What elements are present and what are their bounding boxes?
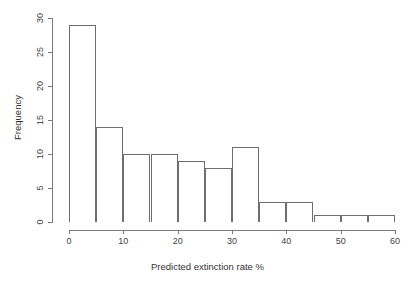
x-axis-tick [232,230,233,234]
x-axis-tick [69,230,70,234]
y-axis-tick-label: 5 [35,182,45,194]
y-axis-tick [48,86,53,87]
y-axis-tick-label: 30 [35,12,45,24]
x-axis-tick [123,230,124,234]
y-axis-tick-label: 25 [35,46,45,58]
y-axis-tick [48,154,53,155]
histogram-bar [205,168,232,222]
y-axis-tick [48,188,53,189]
x-axis-tick [286,230,287,234]
histogram-bar [96,127,123,222]
histogram-bar [368,215,395,222]
histogram-bar [123,154,150,222]
y-axis-title: Frequency [12,63,23,173]
histogram-bar [178,161,205,222]
y-axis-tick-label: 20 [35,80,45,92]
histogram-bar [314,215,341,222]
y-axis-tick [48,222,53,223]
y-axis-tick [48,120,53,121]
histogram-bar [232,147,259,222]
y-axis-tick-label: 0 [35,216,45,228]
x-axis-tick [178,230,179,234]
histogram-bar [259,202,286,222]
x-axis-tick-label: 50 [336,236,346,247]
y-axis-tick-label: 10 [35,148,45,160]
plot-area [69,18,395,222]
x-axis-title: Predicted extinction rate % [0,261,415,272]
x-axis-tick [341,230,342,234]
histogram-bar [286,202,313,222]
x-axis-tick-label: 10 [118,236,128,247]
y-axis-tick [48,18,53,19]
x-axis-tick [395,230,396,234]
histogram-figure: 0102030405060 051015202530 Predicted ext… [0,0,415,285]
y-axis-tick-label: 15 [35,114,45,126]
x-axis-tick-label: 0 [66,236,71,247]
histogram-bar [341,215,368,222]
histogram-bar [151,154,178,222]
x-axis-tick-label: 40 [281,236,291,247]
x-axis-tick-label: 30 [227,236,237,247]
histogram-bar [69,25,96,222]
x-axis-tick-label: 60 [390,236,400,247]
x-axis-tick-label: 20 [173,236,183,247]
y-axis-tick [48,52,53,53]
